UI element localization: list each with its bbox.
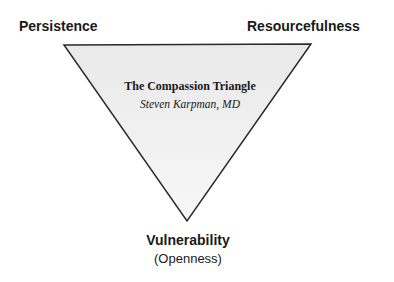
- triangle-shape: [64, 44, 311, 221]
- vertex-label-vulnerability: Vulnerability: [100, 232, 276, 248]
- diagram-title: The Compassion Triangle: [120, 79, 260, 94]
- diagram-author: Steven Karpman, MD: [120, 98, 260, 110]
- vertex-sublabel-openness: (Openness): [100, 251, 276, 266]
